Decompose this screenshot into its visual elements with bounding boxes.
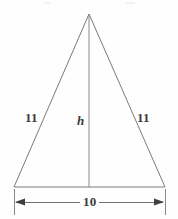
label-base-length: 10 bbox=[81, 195, 98, 208]
geometry-diagram-figure: 11 11 h 10 bbox=[0, 0, 178, 219]
label-left-side-length: 11 bbox=[25, 111, 38, 124]
triangle-left-side-line bbox=[14, 14, 89, 187]
label-right-side-length: 11 bbox=[137, 111, 150, 124]
dimension-arrowhead-left-icon bbox=[15, 198, 25, 205]
label-height-h: h bbox=[77, 114, 84, 127]
dimension-arrowhead-right-icon bbox=[154, 198, 164, 205]
triangle-right-side-line bbox=[89, 14, 165, 187]
